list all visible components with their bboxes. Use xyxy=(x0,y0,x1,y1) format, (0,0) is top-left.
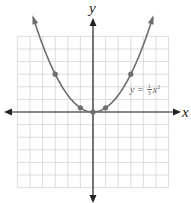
equation-lhs: y = xyxy=(130,84,144,95)
fraction-numerator: 1 xyxy=(147,83,152,90)
data-point xyxy=(128,72,133,77)
y-axis-label: y xyxy=(89,0,96,17)
graph-canvas xyxy=(0,0,191,203)
data-point xyxy=(90,109,95,114)
x-axis-label: x xyxy=(182,104,189,121)
data-point xyxy=(53,72,58,77)
equation-exponent: 2 xyxy=(157,84,160,90)
equation-label: y = 1 3 x 2 xyxy=(130,83,160,96)
data-point xyxy=(78,105,83,110)
equation-fraction: 1 3 xyxy=(147,83,152,96)
data-point xyxy=(103,105,108,110)
fraction-denominator: 3 xyxy=(148,90,151,96)
